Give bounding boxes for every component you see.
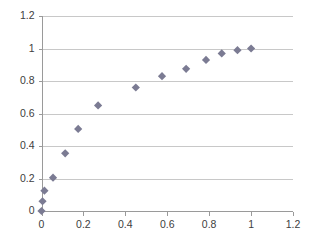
data-point-marker: [74, 125, 82, 133]
data-point-marker: [158, 72, 166, 80]
data-point-marker: [202, 56, 210, 64]
data-point-marker: [132, 83, 140, 91]
x-axis-tick-marks: [43, 212, 294, 216]
y-axis-tick-label: 0.2: [20, 173, 35, 184]
y-axis-tick-label: 1.2: [20, 10, 35, 21]
data-point-marker: [38, 197, 46, 205]
data-point-marker: [40, 187, 48, 195]
data-point-marker: [233, 46, 241, 54]
scatter-chart: 00.20.40.60.811.2 00.20.40.60.811.2: [0, 0, 314, 244]
x-axis-tick-label: 0.6: [147, 219, 187, 230]
x-axis-tick-label: 0.8: [189, 219, 229, 230]
y-axis-tick-label: 0: [29, 205, 35, 216]
axis-lines: [43, 16, 294, 212]
y-axis-tick-label: 1: [29, 43, 35, 54]
y-axis-tick-label: 0.6: [20, 108, 35, 119]
gridlines: [42, 17, 294, 180]
x-axis-tick-label: 1.2: [273, 219, 313, 230]
x-axis-tick-label: 0.4: [105, 219, 145, 230]
y-axis-tick-label: 0.4: [20, 140, 35, 151]
plot-area: [0, 0, 314, 244]
y-axis-tick-label: 0.8: [20, 75, 35, 86]
x-axis-tick-label: 0: [22, 219, 62, 230]
data-point-marker: [182, 65, 190, 73]
data-point-marker: [94, 101, 102, 109]
data-point-marker: [37, 207, 45, 215]
x-axis-tick-label: 0.2: [63, 219, 103, 230]
data-point-marker: [247, 44, 255, 52]
data-point-marker: [61, 149, 69, 157]
data-point-markers: [37, 44, 255, 215]
data-point-marker: [218, 49, 226, 57]
x-axis-tick-label: 1: [231, 219, 271, 230]
data-point-marker: [49, 174, 57, 182]
